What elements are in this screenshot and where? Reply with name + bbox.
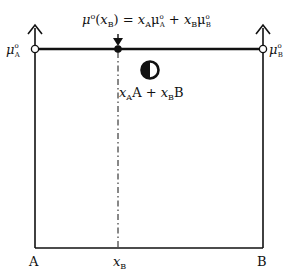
endpoint-b-open-circle-icon: [259, 45, 266, 52]
right-axis-label: μoB: [269, 42, 283, 59]
endpoint-a-open-circle-icon: [31, 45, 38, 52]
composition-xb-label: xB: [113, 254, 126, 271]
half-filled-circle-icon: [142, 62, 159, 79]
mixing-diagram: μo(xB) = xAμoA + xBμoB μoA μoB xAA + xBB…: [0, 0, 292, 280]
component-b-label: B: [257, 254, 267, 269]
mixture-label: xAA + xBB: [119, 85, 183, 102]
composition-point-icon: [114, 45, 122, 53]
left-axis-label: μoA: [6, 42, 21, 59]
component-a-label: A: [28, 254, 39, 269]
equation: μo(xB) = xAμoA + xBμoB: [82, 12, 211, 29]
